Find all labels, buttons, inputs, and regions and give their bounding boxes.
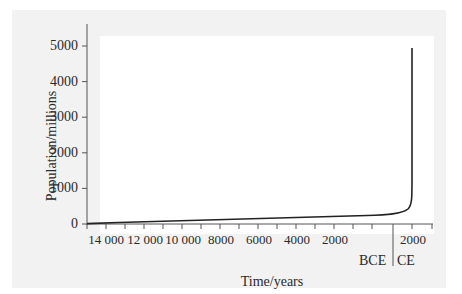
x-tick-label: 2000: [383, 233, 443, 246]
x-axis-title: Time/years: [192, 274, 352, 290]
bce-label: BCE: [359, 254, 386, 268]
y-axis-title: Population/millions: [44, 46, 60, 246]
x-axis-ticks: [87, 224, 432, 229]
y-axis-ticks: [82, 46, 87, 224]
ce-label: CE: [397, 254, 415, 268]
population-curve: [87, 48, 412, 224]
x-tick-label: 2000: [305, 233, 365, 246]
chart-figure: 0 1000 2000 3000 4000 5000 14 000 12 000…: [12, 10, 446, 288]
